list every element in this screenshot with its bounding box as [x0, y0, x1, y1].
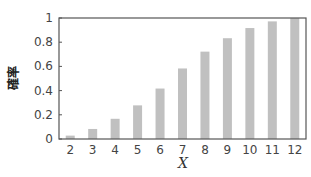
- bar-6: [156, 89, 165, 139]
- x-tick-label: 2: [66, 143, 74, 157]
- bar-3: [88, 129, 97, 139]
- bar-9: [223, 38, 232, 139]
- cumulative-probability-bar-chart: 00.20.40.60.81 23456789101112 確率 X: [0, 0, 311, 177]
- x-tick-label: 3: [89, 143, 97, 157]
- y-tick-label: 0.4: [34, 84, 53, 98]
- y-axis-label: 確率: [6, 66, 21, 90]
- x-tick-label: 9: [224, 143, 232, 157]
- y-tick-label: 0.6: [34, 59, 53, 73]
- bar-11: [268, 21, 277, 139]
- bar-12: [290, 18, 299, 139]
- x-axis-label: X: [177, 155, 189, 171]
- x-tick-label: 12: [287, 143, 302, 157]
- bar-4: [111, 119, 120, 139]
- y-tick-label: 1: [45, 11, 53, 25]
- bar-8: [200, 52, 209, 139]
- y-tick-label: 0.2: [34, 108, 53, 122]
- y-tick-label: 0: [45, 132, 53, 146]
- x-tick-label: 8: [201, 143, 209, 157]
- bar-5: [133, 105, 142, 139]
- x-tick-label: 10: [242, 143, 257, 157]
- x-tick-label: 6: [156, 143, 164, 157]
- x-tick-label: 5: [134, 143, 142, 157]
- bar-7: [178, 68, 187, 139]
- x-tick-label: 11: [265, 143, 280, 157]
- bars: [66, 18, 300, 139]
- y-axis-ticks: 00.20.40.60.81: [34, 11, 62, 146]
- bar-10: [245, 28, 254, 139]
- y-tick-label: 0.8: [34, 35, 53, 49]
- x-tick-label: 4: [111, 143, 119, 157]
